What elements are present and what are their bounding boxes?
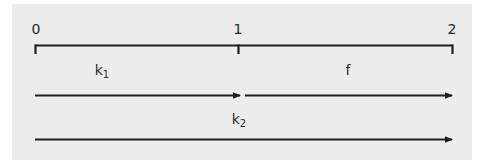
- segment-label-f: f: [346, 63, 351, 77]
- f-base: f: [346, 62, 351, 78]
- arrow-label-k2: k2: [232, 112, 246, 129]
- tick-label-1: 1: [234, 22, 243, 36]
- k1-base: k: [95, 62, 103, 78]
- tick-label-2: 2: [448, 22, 457, 36]
- segment-label-k1: k1: [95, 63, 109, 80]
- k2-subscript: 2: [240, 118, 246, 129]
- axis-bracket: [35, 45, 453, 55]
- k1-subscript: 1: [103, 69, 109, 80]
- tick-label-0: 0: [32, 22, 41, 36]
- k2-base: k: [232, 111, 240, 127]
